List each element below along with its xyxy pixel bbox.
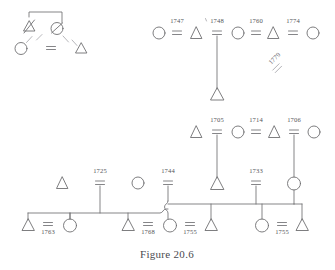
descent-line-diagonal (72, 40, 77, 46)
female-symbol (132, 177, 144, 189)
marriage-1779 (273, 64, 282, 73)
cluster-top-right (153, 19, 319, 101)
female-symbol (164, 219, 177, 232)
male-symbol (205, 219, 217, 231)
marriage-1768 (144, 223, 153, 226)
descent-line-diagonal (37, 35, 43, 41)
male-symbol (296, 219, 308, 231)
date-label-1714: 1714 (249, 116, 263, 123)
marriage-1725 (96, 181, 105, 185)
date-label-1763: 1763 (41, 228, 55, 235)
marriage-1760 (252, 31, 261, 35)
marriage-1705 (213, 130, 222, 134)
sibship-structure (28, 186, 302, 220)
marriage-1755-a (186, 223, 195, 226)
female-symbol (256, 219, 269, 232)
marriage-1774 (289, 31, 298, 35)
date-label-1725: 1725 (93, 167, 107, 174)
date-label-1748: 1748 (210, 17, 224, 24)
cluster-bottom-row (22, 219, 308, 232)
date-label-1774: 1774 (286, 17, 300, 24)
marriage-equals-icon (47, 47, 56, 50)
date-labels: 1747 1748 1760 1774 1779 1705 1714 1706 … (41, 17, 301, 235)
female-symbol (308, 126, 320, 138)
marriage-1733 (252, 181, 261, 185)
cluster-middle-row (191, 126, 321, 190)
marriage-1763 (44, 223, 53, 226)
date-label-1744: 1744 (161, 167, 175, 174)
marriage-1748 (213, 31, 222, 35)
kinship-diagram: 1747 1748 1760 1774 1779 1705 1714 1706 … (0, 0, 335, 270)
male-symbol (76, 43, 87, 53)
male-symbol (211, 177, 224, 190)
female-symbol (15, 43, 27, 55)
date-label-1760: 1760 (249, 17, 263, 24)
marriage-1714 (252, 130, 261, 134)
cluster-third-row (57, 177, 261, 189)
descent-line-diagonal (63, 36, 69, 42)
marriage-1755-b (278, 223, 287, 226)
female-symbol (288, 177, 301, 190)
male-symbol (22, 219, 34, 231)
female-symbol (64, 219, 77, 232)
cluster-top-left (15, 12, 87, 55)
date-label-1733: 1733 (249, 167, 263, 174)
sibship-bar-left (28, 209, 168, 213)
female-symbol (307, 27, 319, 39)
date-label-1706: 1706 (287, 116, 301, 123)
marriage-1747 (173, 31, 182, 35)
date-label-1755-b: 1755 (275, 228, 289, 235)
date-label-1705: 1705 (210, 116, 224, 123)
male-symbol (191, 27, 202, 39)
date-label-1747: 1747 (170, 17, 184, 24)
tick-mark (206, 19, 207, 22)
descent-line-diagonal (27, 37, 33, 43)
figure-caption: Figure 20.6 (140, 248, 194, 260)
line-hop-bridge (165, 201, 169, 219)
date-label-1768: 1768 (141, 228, 155, 235)
female-symbol (153, 27, 165, 39)
male-symbol (57, 177, 68, 189)
male-symbol (211, 88, 224, 100)
female-symbol (232, 126, 244, 138)
marriage-1706 (290, 130, 299, 134)
male-symbol (122, 219, 134, 231)
female-symbol (232, 27, 244, 39)
date-label-1779: 1779 (267, 51, 282, 66)
male-symbol (191, 126, 202, 138)
male-symbol (269, 126, 280, 138)
male-symbol (268, 27, 279, 39)
figure-container: 1747 1748 1760 1774 1779 1705 1714 1706 … (0, 0, 335, 270)
marriage-1744 (164, 181, 173, 185)
date-label-1755-a: 1755 (183, 228, 197, 235)
